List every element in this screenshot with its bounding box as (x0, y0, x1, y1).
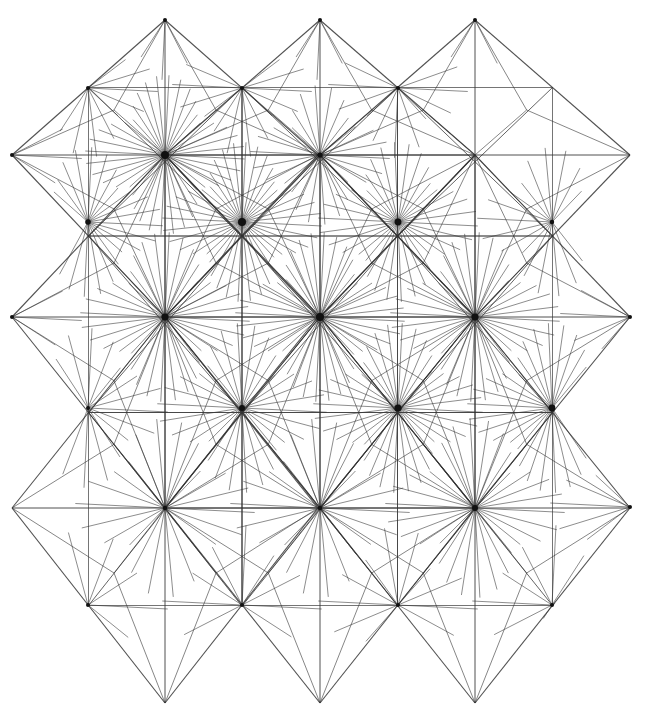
hub-vertex (316, 313, 324, 321)
hub-vertex (549, 405, 556, 412)
hub-vertex (85, 219, 91, 225)
hub-vertex (550, 220, 554, 224)
hub-vertex (86, 406, 90, 410)
hub-vertex (472, 505, 478, 511)
hub-vertex (10, 315, 14, 319)
hub-vertex (240, 86, 244, 90)
hub-vertex (396, 86, 400, 90)
hub-vertex (86, 86, 90, 90)
hub-fan-rays (12, 20, 630, 641)
diamond-lattice-diagram (0, 0, 650, 724)
hub-vertex (86, 603, 90, 607)
lattice-edges (12, 20, 630, 703)
hub-vertex (318, 506, 322, 510)
hub-vertex (317, 152, 322, 157)
hub-vertex (161, 313, 168, 320)
hub-vertex (163, 506, 167, 510)
hub-vertex (163, 18, 167, 22)
hub-vertex (240, 603, 244, 607)
hub-vertex (396, 603, 400, 607)
hub-vertex (239, 405, 245, 411)
hub-vertex (471, 313, 478, 320)
hub-vertex (473, 18, 477, 22)
hub-vertex (550, 603, 554, 607)
hub-vertex (10, 153, 14, 157)
hub-vertex (238, 218, 246, 226)
hub-vertex (161, 151, 169, 159)
hub-vertex (318, 18, 322, 22)
hub-vertex (628, 505, 632, 509)
hub-vertex (394, 404, 401, 411)
hub-vertex (628, 315, 632, 319)
hub-vertex (395, 219, 402, 226)
